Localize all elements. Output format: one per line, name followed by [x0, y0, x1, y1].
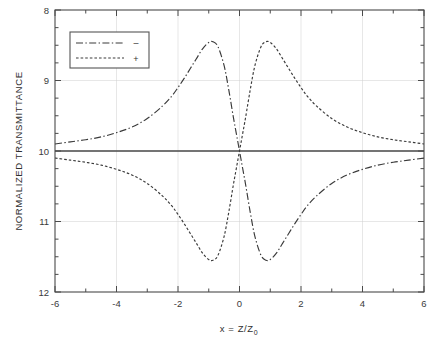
- legend[interactable]: – +: [70, 32, 149, 68]
- y-tick-label: 12: [38, 287, 49, 298]
- legend-symbol-positive: +: [133, 54, 138, 64]
- x-tick-label: -6: [51, 298, 59, 309]
- x-tick-labels: -6-4-20246: [51, 298, 427, 309]
- y-tick-label: 9: [44, 75, 49, 86]
- x-axis-title: x = Z/Z0: [220, 323, 259, 336]
- x-tick-label: -4: [112, 298, 120, 309]
- legend-symbol-negative: –: [133, 38, 138, 48]
- x-tick-label: 4: [360, 298, 365, 309]
- x-tick-label: -2: [174, 298, 182, 309]
- chart-svg: -6-4-20246 12111098 – + x = Z/Z0 NORMALI…: [0, 0, 430, 343]
- x-tick-label: 0: [237, 298, 242, 309]
- x-tick-label: 6: [421, 298, 426, 309]
- y-tick-label: 8: [44, 5, 49, 16]
- y-tick-labels: 12111098: [38, 5, 49, 298]
- y-axis-title: NORMALIZED TRANSMITTANCE: [13, 71, 24, 230]
- y-tick-label: 11: [39, 216, 49, 227]
- x-tick-label: 2: [298, 298, 303, 309]
- y-tick-label: 10: [38, 146, 49, 157]
- chart-figure: -6-4-20246 12111098 – + x = Z/Z0 NORMALI…: [0, 0, 430, 343]
